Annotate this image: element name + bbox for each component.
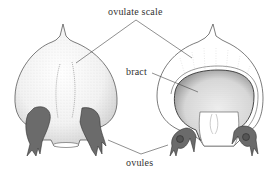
ovulate-scale-diagram: ovulate scale bract ovules	[0, 0, 275, 179]
label-bract: bract	[126, 67, 147, 77]
left-scale-view	[15, 24, 117, 156]
right-ovule-1	[170, 128, 196, 156]
leader-ovulate-scale-right	[136, 20, 192, 58]
diagram-canvas	[0, 0, 275, 179]
left-ovule-1	[26, 107, 50, 156]
right-scale-view	[157, 24, 263, 156]
leader-ovulate-scale-left	[76, 20, 136, 63]
leader-ovules-right	[141, 145, 168, 154]
label-ovules: ovules	[126, 158, 153, 168]
leader-ovules-left	[108, 140, 141, 154]
left-stalk-base	[53, 143, 79, 148]
label-ovulate-scale: ovulate scale	[108, 7, 163, 17]
